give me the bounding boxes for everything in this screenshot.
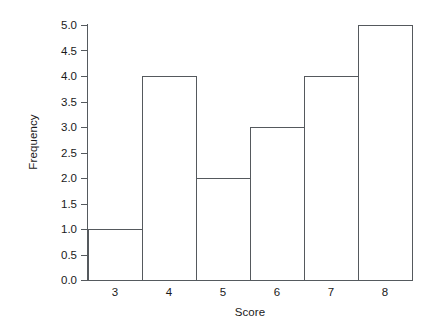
histogram-bar [250,127,305,280]
y-axis-tick-label: 2.5 [37,147,77,159]
y-axis-tick-label: 5.0 [37,19,77,31]
plot-area [88,25,412,280]
y-axis-tick-label: 4.5 [37,45,77,57]
y-axis-tick-label: 1.5 [37,198,77,210]
x-axis-title: Score [88,306,412,318]
x-axis-tick-label: 4 [142,286,196,298]
histogram-chart: Frequency 0.00.51.01.52.02.53.03.54.04.5… [0,0,435,336]
x-axis-tick-label: 5 [196,286,250,298]
histogram-bar [88,229,143,280]
y-axis-tick-label: 2.0 [37,172,77,184]
x-axis-tick-label: 7 [304,286,358,298]
y-axis-tick-label: 0.5 [37,249,77,261]
histogram-bar [142,76,197,280]
x-axis-tick-label: 6 [250,286,304,298]
y-axis-tick-labels: 0.00.51.01.52.02.53.03.54.04.55.0 [33,0,77,336]
y-axis-tick-label: 1.0 [37,223,77,235]
histogram-bar [358,25,413,280]
histogram-bar [304,76,359,280]
x-axis-tick-label: 3 [88,286,142,298]
y-axis-tick-label: 0.0 [37,274,77,286]
x-axis-line [87,280,413,281]
histogram-bar [196,178,251,280]
y-axis-tick-label: 4.0 [37,70,77,82]
y-axis-tick-label: 3.5 [37,96,77,108]
y-axis-tick-label: 3.0 [37,121,77,133]
x-axis-tick-label: 8 [358,286,412,298]
x-axis-tick-labels: 345678 [88,286,412,306]
